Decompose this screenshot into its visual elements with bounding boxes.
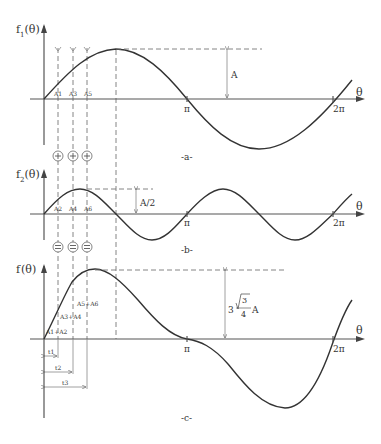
panel-c-amplitude-label: 3 3 4 A <box>228 294 259 319</box>
panel-b-point-a2: A2 <box>53 205 62 212</box>
panel-b-caption: -b- <box>181 245 193 255</box>
panel-a-point-a3: A3 <box>68 90 77 97</box>
panel-a <box>30 24 365 149</box>
panel-a-x-label: θ <box>356 86 363 99</box>
panel-c-time-t2: t2 <box>55 364 61 371</box>
panel-b-point-a6: A6 <box>83 205 92 212</box>
panel-c <box>30 264 365 418</box>
panel-b-y-label: f2(θ) <box>16 168 40 184</box>
equals-icon <box>82 242 92 252</box>
panel-c-time-t1: t1 <box>48 348 54 355</box>
plus-operators <box>53 151 92 161</box>
harmonic-superposition-diagram: f1(θ) θ π 2π A A1 A3 A5 -a- f2(θ) θ π 2π… <box>0 0 381 444</box>
panel-c-y-label: f(θ) <box>16 263 36 276</box>
svg-text:3: 3 <box>228 305 234 315</box>
y-axis-arrow-icon <box>41 264 47 273</box>
panel-b-amplitude-label: A/2 <box>139 198 155 208</box>
panel-c-tick-pi: π <box>184 344 190 354</box>
panel-a-amplitude-label: A <box>230 70 238 80</box>
panel-b-point-a4: A4 <box>68 205 77 212</box>
panel-c-caption: -c- <box>181 413 192 423</box>
panel-a-y-label: f1(θ) <box>16 23 40 39</box>
panel-a-tick-pi: π <box>184 104 190 114</box>
panel-a-caption: -a- <box>181 152 192 162</box>
svg-text:4: 4 <box>241 310 246 319</box>
panel-c-point-a3a4: A3+A4 <box>59 313 82 320</box>
svg-text:A: A <box>251 305 259 315</box>
y-axis-arrow-icon <box>41 24 47 33</box>
equals-icon <box>68 242 78 252</box>
panel-c-point-a1a2: A1+A2 <box>45 328 68 335</box>
panel-a-point-a5: A5 <box>83 90 92 97</box>
panel-a-point-a1: A1 <box>53 90 62 97</box>
panel-a-tick-2pi: 2π <box>333 104 345 114</box>
panel-b-tick-2pi: 2π <box>333 218 345 228</box>
y-axis-arrow-icon <box>41 169 47 178</box>
panel-c-x-label: θ <box>356 324 363 337</box>
svg-text:3: 3 <box>242 296 247 305</box>
panel-c-tick-2pi: 2π <box>333 344 345 354</box>
panel-c-time-t3: t3 <box>62 379 68 386</box>
panel-b <box>30 169 365 240</box>
equals-operators <box>53 242 92 252</box>
panel-c-point-a5a6: A5+A6 <box>76 300 99 307</box>
panel-b-tick-pi: π <box>184 218 190 228</box>
equals-icon <box>53 242 63 252</box>
panel-b-x-label: θ <box>356 200 363 213</box>
